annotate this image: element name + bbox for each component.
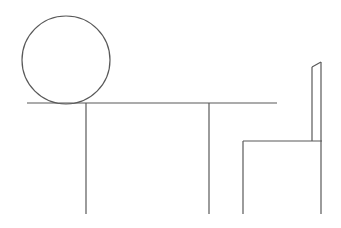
canvas-background — [0, 0, 341, 228]
line-drawing-svg — [0, 0, 341, 228]
drawing-canvas — [0, 0, 341, 228]
